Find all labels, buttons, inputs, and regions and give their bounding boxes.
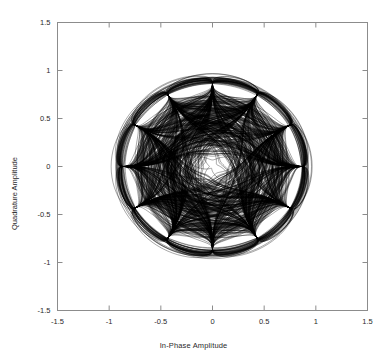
plot-canvas: -1.5-1-0.500.511.5 -1.5-1-0.500.511.5	[0, 0, 387, 364]
y-tick-label: 0	[46, 162, 50, 171]
x-tick-label: 1	[314, 317, 318, 326]
x-tick-label: 0	[210, 317, 214, 326]
phase-trajectory-figure: -1.5-1-0.500.511.5 -1.5-1-0.500.511.5 In…	[0, 0, 387, 364]
x-tick-label: -1.5	[51, 317, 64, 326]
y-tick-label: 1.5	[40, 18, 50, 27]
plot-axes: -1.5-1-0.500.511.5 -1.5-1-0.500.511.5	[38, 18, 373, 325]
trajectory-traces	[111, 74, 312, 259]
x-tick-label: -1	[106, 317, 113, 326]
y-tick-label: -1.5	[38, 306, 51, 315]
x-tick-label: 0.5	[259, 317, 269, 326]
y-tick-label: -0.5	[38, 210, 51, 219]
y-axis-ticks: -1.5-1-0.500.511.5	[38, 18, 368, 315]
x-axis-title: In-Phase Amplitude	[0, 341, 387, 350]
x-tick-label: -0.5	[154, 317, 167, 326]
y-tick-label: -1	[44, 258, 51, 267]
y-axis-title: Quadrature Amplitude	[10, 157, 19, 230]
x-tick-label: 1.5	[362, 317, 372, 326]
plot-frame	[58, 23, 368, 311]
y-tick-label: 0.5	[40, 114, 50, 123]
y-tick-label: 1	[46, 66, 50, 75]
x-axis-ticks: -1.5-1-0.500.511.5	[51, 23, 373, 326]
